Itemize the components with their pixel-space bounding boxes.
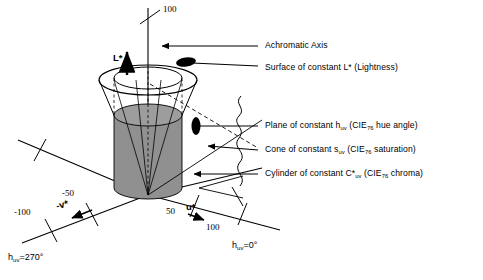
hue-angle-270-label: huv=270° xyxy=(8,252,43,262)
leader-surface-lightness xyxy=(192,63,258,66)
callout-cylinder-chroma: Cylinder of constant C*uv (CIE76 chroma) xyxy=(265,168,423,178)
v-star-tick-label-100: -100 xyxy=(14,207,31,217)
lightness-axis-label: L* xyxy=(113,52,123,63)
callout-surface-lightness-text: Surface of constant L* (Lightness) xyxy=(265,62,398,72)
lightness-surface-marker xyxy=(175,56,196,68)
rear-axis-tick xyxy=(34,139,46,161)
leader-cone-saturation xyxy=(208,146,258,150)
v-star-axis-line xyxy=(22,195,148,243)
u-tick-100 xyxy=(238,203,247,225)
hue-angle-zero-label: huv=0° xyxy=(232,240,257,250)
lightness-tick-100 xyxy=(140,10,160,24)
hue-plane-marker xyxy=(192,117,201,135)
v-star-direction-arrow xyxy=(72,210,92,218)
lightness-tick-label-100: 100 xyxy=(163,4,177,14)
callout-surface-lightness: Surface of constant L* (Lightness) xyxy=(265,62,398,72)
callout-cone-saturation: Cone of constant suv (CIE76 saturation) xyxy=(265,144,416,154)
u-star-tick-label-50: 50 xyxy=(166,206,175,216)
v-star-tick-label-50: -50 xyxy=(62,188,74,198)
callout-achromatic-axis-text: Achromatic Axis xyxy=(265,40,328,50)
diagram-canvas: Achromatic Axis Surface of constant L* (… xyxy=(0,0,483,280)
u-star-axis-label: u* xyxy=(186,201,196,212)
u-star-tick-label-100: 100 xyxy=(206,222,220,232)
callout-plane-hue: Plane of constant huv (CIE76 hue angle) xyxy=(265,120,418,130)
callout-achromatic-axis: Achromatic Axis xyxy=(265,40,328,50)
diagram-vector-art xyxy=(0,0,483,280)
